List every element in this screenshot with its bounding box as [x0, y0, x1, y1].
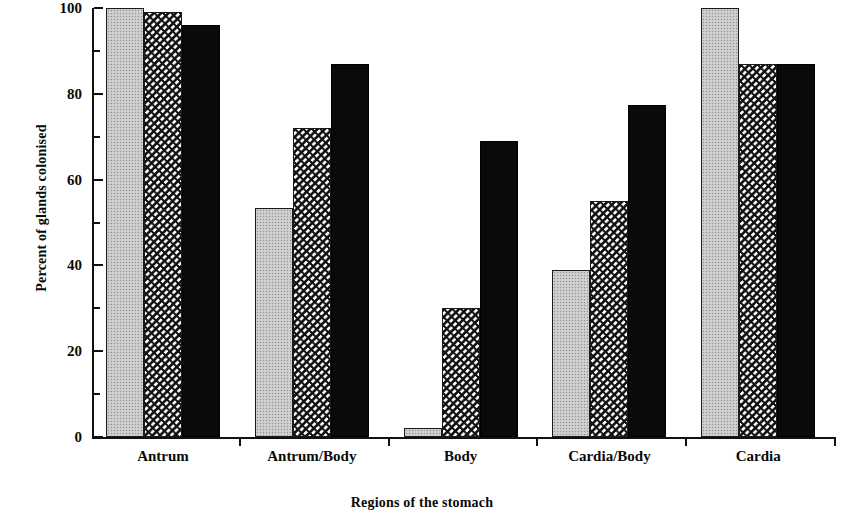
bar-group [404, 8, 518, 437]
bar-cardia-body-series-1 [552, 270, 590, 437]
bar-antrum-body-series-3 [331, 64, 369, 437]
bar-cardia-body-series-2 [590, 201, 628, 437]
bar-antrum-body-series-1 [255, 208, 293, 438]
x-tick [536, 439, 538, 446]
y-tick-label: 60 [67, 171, 82, 188]
y-axis-spine [92, 8, 94, 439]
y-tick-minor [94, 222, 100, 224]
x-tick [685, 439, 687, 446]
bar-body-series-3 [480, 141, 518, 437]
y-tick-minor [94, 307, 100, 309]
x-tick-label: Body [444, 448, 477, 465]
bar-group [552, 8, 666, 437]
y-tick-major [94, 264, 103, 266]
x-tick [388, 439, 390, 446]
y-tick-label: 100 [60, 0, 83, 17]
y-tick-label: 80 [67, 85, 82, 102]
bar-cardia-series-2 [739, 64, 777, 437]
bar-cardia-series-3 [777, 64, 815, 437]
bar-group [255, 8, 369, 437]
y-tick-minor [94, 50, 100, 52]
y-tick-label: 20 [67, 343, 82, 360]
y-tick-label: 0 [75, 429, 83, 446]
bar-cardia-series-1 [701, 8, 739, 437]
x-tick-label: Antrum/Body [267, 448, 356, 465]
y-tick-major [94, 179, 103, 181]
bar-antrum-series-2 [144, 12, 182, 437]
y-tick-minor [94, 136, 100, 138]
x-tick-label: Cardia [736, 448, 781, 465]
y-tick-minor [94, 393, 100, 395]
y-tick-major [94, 350, 103, 352]
x-tick-label: Antrum [137, 448, 189, 465]
y-tick-label: 40 [67, 257, 82, 274]
x-tick-label: Cardia/Body [568, 448, 651, 465]
y-tick-major [94, 436, 103, 438]
bar-group [701, 8, 815, 437]
x-axis-spine [92, 437, 836, 439]
bar-antrum-series-1 [106, 8, 144, 437]
x-axis-title: Regions of the stomach [0, 495, 844, 511]
bar-body-series-1 [404, 428, 442, 437]
plot-area [92, 8, 836, 437]
bar-antrum-series-3 [182, 25, 220, 437]
bar-antrum-body-series-2 [293, 128, 331, 437]
y-tick-major [94, 93, 103, 95]
x-tick [834, 439, 836, 446]
bar-body-series-2 [442, 308, 480, 437]
x-axis-category-labels: AntrumAntrum/BodyBodyCardia/BodyCardia [92, 448, 836, 474]
bar-cardia-body-series-3 [628, 105, 666, 437]
x-tick [239, 439, 241, 446]
y-axis-tick-labels: 020406080100 [0, 8, 88, 437]
bar-group [106, 8, 220, 437]
bar-chart-figure: Percent of glands colonised 020406080100… [0, 0, 844, 526]
y-tick-major [94, 7, 103, 9]
